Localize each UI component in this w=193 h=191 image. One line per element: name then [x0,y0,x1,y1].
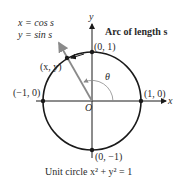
angle-arc [84,80,113,101]
equation-x: x = cos s [17,17,54,28]
point-left [41,99,45,103]
point-top-label: (0, 1) [94,41,116,53]
theta-label: θ [105,71,110,82]
point-right [139,99,143,103]
caption: Unit circle x² + y² = 1 [45,166,132,177]
point-right-label: (1, 0) [144,88,166,100]
point-xy-label: (x, y) [40,61,62,73]
point-bottom-label: (0, −1) [95,151,122,163]
point-xy [65,56,69,60]
x-axis-label: x [167,95,173,106]
arc-label: Arc of length s [105,26,167,37]
point-left-label: (−1, 0) [13,87,40,99]
equation-y: y = sin s [17,29,52,40]
origin-label: O [85,102,92,113]
unit-circle-diagram: x = cos s y = sin s y Arc of length s (x… [0,0,193,191]
point-bottom [90,148,94,152]
y-axis-label: y [88,11,94,22]
